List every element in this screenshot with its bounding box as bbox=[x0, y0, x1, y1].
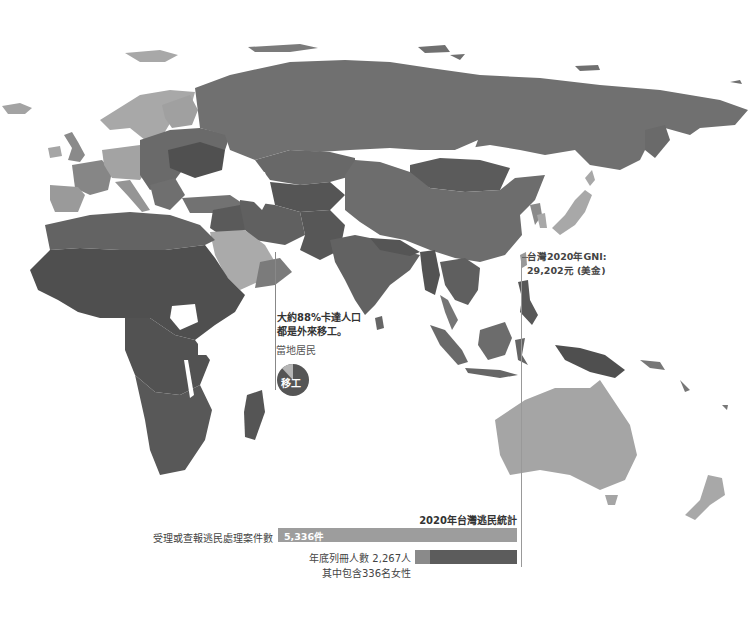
iceland bbox=[2, 103, 32, 114]
myanmar bbox=[420, 250, 440, 295]
pie-migrant-label: 移工 bbox=[281, 375, 301, 390]
north-africa bbox=[45, 212, 215, 250]
taiwan-stats-line bbox=[521, 262, 522, 567]
borneo bbox=[478, 322, 512, 360]
uk bbox=[64, 132, 85, 162]
taiwan-note-line2: 29,202元 (美金) bbox=[527, 264, 607, 278]
madagascar bbox=[244, 390, 265, 440]
pie-local-label: 當地居民 bbox=[276, 342, 316, 357]
qatar-note-line2: 都是外來移工。 bbox=[277, 325, 361, 339]
italy bbox=[115, 180, 150, 212]
sumatra bbox=[430, 325, 468, 365]
lake-victoria bbox=[198, 343, 208, 355]
japan bbox=[552, 170, 595, 235]
malay-peninsula bbox=[440, 295, 458, 330]
cases-bar-label: 受理或查報逃民處理案件數 bbox=[153, 530, 273, 545]
tasmania bbox=[605, 495, 618, 505]
qatar-note: 大約88%卡達人口 都是外來移工。 bbox=[277, 311, 361, 339]
taiwan-note-line1: 台灣2020年GNI: bbox=[527, 250, 607, 264]
registered-bar-sublabel: 其中包含336名女性 bbox=[322, 565, 411, 580]
taiwan-note: 台灣2020年GNI: 29,202元 (美金) bbox=[527, 250, 607, 278]
registered-bar bbox=[415, 550, 517, 564]
svalbard bbox=[125, 50, 178, 62]
oman-yemen bbox=[255, 258, 292, 288]
black-sea bbox=[185, 175, 230, 195]
arctic-islands-russia bbox=[248, 44, 318, 52]
indochina bbox=[440, 258, 480, 305]
iberia bbox=[50, 185, 85, 212]
pacific-islands bbox=[640, 360, 728, 410]
kamchatka bbox=[645, 125, 670, 158]
registered-women-segment bbox=[415, 550, 430, 564]
world-map bbox=[0, 0, 748, 617]
qatar-note-line1: 大約88%卡達人口 bbox=[277, 311, 361, 325]
java bbox=[465, 368, 518, 378]
australia bbox=[495, 380, 637, 490]
stats-title: 2020年台灣逃民統計 bbox=[419, 512, 517, 527]
new-zealand bbox=[685, 475, 725, 520]
registered-bar-label: 年底列冊人數 2,267人 bbox=[309, 550, 411, 565]
sri-lanka bbox=[375, 316, 384, 330]
new-guinea bbox=[555, 345, 625, 378]
ireland bbox=[48, 146, 62, 158]
south-korea bbox=[537, 213, 547, 228]
cases-bar-value: 5,336件 bbox=[284, 529, 324, 543]
